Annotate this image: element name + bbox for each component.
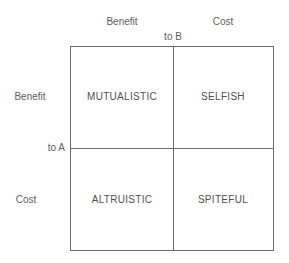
- cell-altruistic: ALTRUISTIC: [92, 194, 153, 206]
- cell-selfish: SELFISH: [201, 91, 245, 103]
- column-axis-label: to B: [164, 31, 182, 43]
- row-axis-label: to A: [48, 142, 65, 154]
- row-header-cost: Cost: [16, 194, 37, 206]
- matrix-horizontal-divider: [70, 148, 274, 149]
- cell-spiteful: SPITEFUL: [198, 194, 248, 206]
- row-header-benefit: Benefit: [14, 91, 45, 103]
- cell-mutualistic: MUTUALISTIC: [87, 91, 157, 103]
- column-header-cost: Cost: [213, 16, 234, 28]
- column-header-benefit: Benefit: [106, 16, 137, 28]
